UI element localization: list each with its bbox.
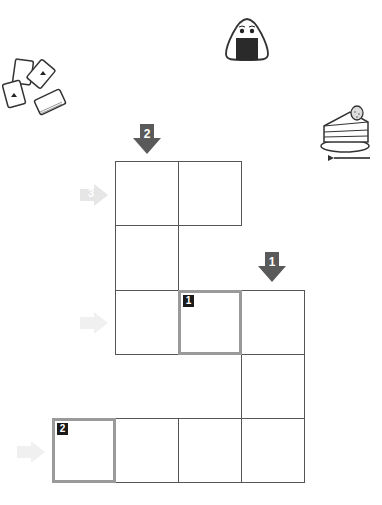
cell-clue-number: 1 [183, 295, 194, 307]
grid-cell[interactable] [115, 290, 179, 355]
across-clue-arrow [80, 312, 108, 334]
grid-cell[interactable]: 2 [52, 418, 116, 483]
down-clue-arrow-1: 1 [258, 252, 286, 282]
across-clue-number: 3 [82, 187, 100, 199]
cake-slice-icon [318, 104, 376, 166]
grid-cell[interactable] [115, 161, 179, 226]
grid-cell[interactable]: 1 [178, 290, 242, 355]
onigiri-icon [222, 16, 272, 62]
grid-cell[interactable] [178, 418, 242, 483]
playing-cards-icon [2, 52, 76, 118]
down-clue-arrow-2: 2 [133, 124, 161, 154]
cell-clue-number: 2 [57, 423, 68, 435]
down-clue-number: 2 [133, 127, 161, 141]
down-clue-number: 1 [258, 255, 286, 269]
across-clue-arrow-3: 3 [80, 184, 108, 206]
across-clue-arrow [17, 441, 45, 463]
grid-cell[interactable] [115, 418, 179, 483]
grid-cell[interactable] [115, 225, 179, 291]
grid-cell[interactable] [241, 418, 305, 483]
grid-cell[interactable] [241, 354, 305, 419]
grid-cell[interactable] [241, 290, 305, 355]
grid-cell[interactable] [178, 161, 242, 226]
